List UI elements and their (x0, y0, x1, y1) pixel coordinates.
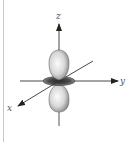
lower-lobe (49, 84, 69, 112)
diagram-frame: z y x (0, 0, 131, 142)
orbital-diagram: z y x (0, 0, 131, 142)
upper-lobe (49, 50, 69, 80)
x-axis-label: x (7, 103, 12, 113)
z-axis-label: z (55, 11, 61, 21)
y-axis-label: y (119, 76, 126, 86)
